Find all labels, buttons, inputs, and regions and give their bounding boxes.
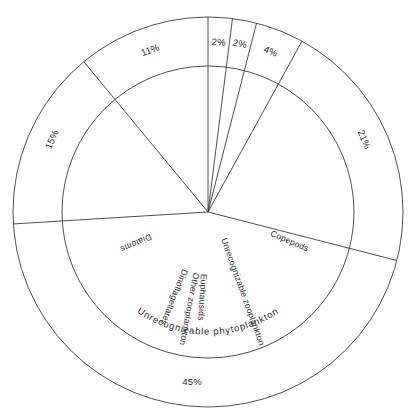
percent-label-euphausids: 2%: [211, 36, 226, 48]
spoke-boundary-1: [208, 19, 232, 212]
percent-label-copepods: 15%: [43, 128, 61, 151]
nested-pie-chart: 2% 2% 4% 21% 45% 15% 11% Euphausids Othe…: [0, 0, 413, 413]
spoke-boundary-5: [13, 212, 208, 224]
percent-label-other-zooplankton: 2%: [232, 37, 248, 51]
slice-label-diatoms: Diatoms: [119, 232, 153, 254]
percent-label-unrecognizable-phytoplankton: 45%: [182, 376, 202, 387]
spoke-boundary-6: [84, 62, 208, 212]
percent-label-diatoms: 21%: [356, 128, 374, 151]
pie-chart-svg: 2% 2% 4% 21% 45% 15% 11% Euphausids Othe…: [0, 0, 413, 413]
spoke-boundary-4: [208, 212, 397, 261]
percent-label-dinoflagellates: 4%: [262, 43, 280, 59]
spoke-boundary-2: [208, 23, 257, 212]
percent-label-unrecognizable-zooplankton: 11%: [139, 41, 161, 58]
slice-label-copepods: Copepods: [269, 228, 310, 253]
